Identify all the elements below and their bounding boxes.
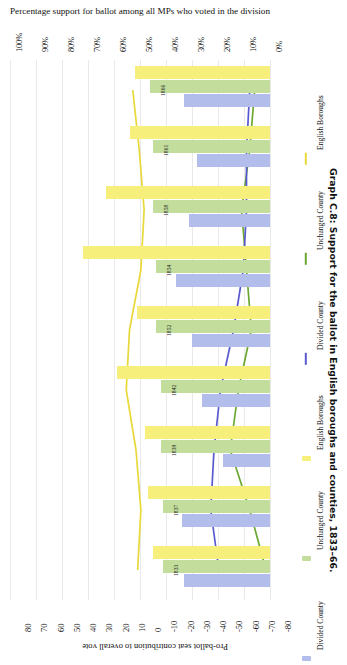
percent-tick-20: 20% xyxy=(222,37,232,52)
seat-axis-label: Pro-ballot seat contribution to overall … xyxy=(40,640,270,658)
bar-english-boroughs-1842 xyxy=(117,366,270,379)
category-label-1837: 1837 xyxy=(173,505,179,516)
bar-divided-county-1852 xyxy=(192,334,270,347)
bar-divided-county-1839 xyxy=(223,454,270,467)
bar-unchanged-county-1858 xyxy=(153,200,270,213)
legend-label-english-boroughs: English Boroughs xyxy=(316,95,325,150)
category-label-1833: 1833 xyxy=(173,565,179,576)
legend-marker-bar-english-boroughs xyxy=(302,456,311,461)
percent-tick-50: 50% xyxy=(144,37,154,52)
bar-unchanged-county-1866 xyxy=(150,80,270,93)
page-title: Percentage support for ballot among all … xyxy=(10,6,270,16)
bar-unchanged-county-1837 xyxy=(163,500,270,513)
legend-marker-bar-unchanged-county xyxy=(302,556,311,561)
chart-legend: Divided CountyUnchanged CountyEnglish Bo… xyxy=(296,60,322,660)
seat-tick-20: 20 xyxy=(121,624,131,633)
bar-english-boroughs-1839 xyxy=(145,426,270,439)
bar-divided-county-1861 xyxy=(197,154,270,167)
seat-tick--10: -10 xyxy=(169,621,179,632)
category-label-1842: 1842 xyxy=(171,385,177,396)
bar-english-boroughs-1852 xyxy=(137,306,270,319)
legend-label-english-boroughs: English Boroughs xyxy=(316,395,325,450)
bar-unchanged-county-1861 xyxy=(153,140,270,153)
seat-tick-0: 0 xyxy=(153,628,163,632)
seat-tick--40: -40 xyxy=(218,621,228,632)
bar-english-boroughs-1837 xyxy=(148,486,270,499)
bar-divided-county-1842 xyxy=(202,394,270,407)
bar-divided-county-1837 xyxy=(182,514,270,527)
legend-label-unchanged-county: Unchanged County xyxy=(316,191,325,250)
legend-label-divided-county: Divided County xyxy=(316,301,325,350)
seat-tick--80: -80 xyxy=(283,621,293,632)
percent-tick-80: 80% xyxy=(66,37,76,52)
bar-unchanged-county-1833 xyxy=(163,560,270,573)
legend-label-divided-county: Divided County xyxy=(316,601,325,650)
percent-tick-70: 70% xyxy=(92,37,102,52)
seat-tick-30: 30 xyxy=(104,624,114,633)
seat-tick-70: 70 xyxy=(39,624,49,633)
seat-tick-40: 40 xyxy=(88,624,98,633)
legend-marker-line-unchanged-county xyxy=(305,253,307,265)
line-english-boroughs xyxy=(126,90,144,570)
bar-divided-county-1854 xyxy=(176,274,270,287)
category-label-1852: 1852 xyxy=(166,325,172,336)
percent-tick-40: 40% xyxy=(170,37,180,52)
category-label-1854: 1854 xyxy=(166,265,172,276)
seat-tick--20: -20 xyxy=(186,621,196,632)
category-label-1858: 1858 xyxy=(163,205,169,216)
bar-english-boroughs-1858 xyxy=(106,186,270,199)
bar-unchanged-county-1852 xyxy=(156,320,270,333)
bar-english-boroughs-1854 xyxy=(83,246,270,259)
legend-label-unchanged-county: Unchanged County xyxy=(316,491,325,550)
percent-tick-0: 0% xyxy=(274,41,284,52)
percent-tick-100: 100% xyxy=(14,33,24,52)
figure-caption: Graph C.8: Support for the ballot in Eng… xyxy=(326,168,344,573)
seat-tick-10: 10 xyxy=(137,624,147,633)
bar-english-boroughs-1833 xyxy=(153,546,270,559)
seat-tick--50: -50 xyxy=(234,621,244,632)
bar-english-boroughs-1866 xyxy=(135,66,270,79)
seat-tick--30: -30 xyxy=(202,621,212,632)
category-label-1839: 1839 xyxy=(171,445,177,456)
bar-divided-county-1866 xyxy=(184,94,270,107)
chart-plot-area: 186618611858185418521842183918371833 xyxy=(8,60,291,600)
bar-divided-county-1858 xyxy=(189,214,270,227)
seat-tick--60: -60 xyxy=(251,621,261,632)
bar-divided-county-1833 xyxy=(184,574,270,587)
category-label-1866: 1866 xyxy=(160,85,166,96)
legend-marker-line-english-boroughs xyxy=(305,153,307,165)
legend-marker-line-divided-county xyxy=(305,353,307,365)
bar-english-boroughs-1861 xyxy=(130,126,270,139)
bar-unchanged-county-1842 xyxy=(161,380,270,393)
bar-unchanged-county-1854 xyxy=(156,260,270,273)
seat-tick-80: 80 xyxy=(23,624,33,633)
percent-tick-90: 90% xyxy=(40,37,50,52)
percent-tick-10: 10% xyxy=(248,37,258,52)
seat-tick-60: 60 xyxy=(56,624,66,633)
category-label-1861: 1861 xyxy=(163,145,169,156)
seat-tick-50: 50 xyxy=(72,624,82,633)
percent-tick-30: 30% xyxy=(196,37,206,52)
seat-tick--70: -70 xyxy=(267,621,277,632)
percent-tick-60: 60% xyxy=(118,37,128,52)
legend-marker-bar-divided-county xyxy=(302,656,311,661)
bar-unchanged-county-1839 xyxy=(161,440,270,453)
